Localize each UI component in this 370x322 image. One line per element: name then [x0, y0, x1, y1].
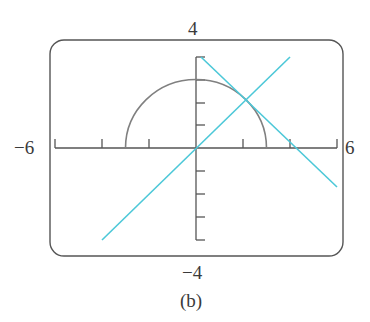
graphing-calculator-figure: 4 −4 −6 6 (b) — [0, 0, 370, 322]
figure-caption: (b) — [180, 291, 202, 310]
y-min-label: −4 — [182, 263, 202, 282]
y-max-label: 4 — [188, 19, 198, 38]
x-min-label: −6 — [14, 138, 34, 157]
x-max-label: 6 — [345, 138, 355, 157]
